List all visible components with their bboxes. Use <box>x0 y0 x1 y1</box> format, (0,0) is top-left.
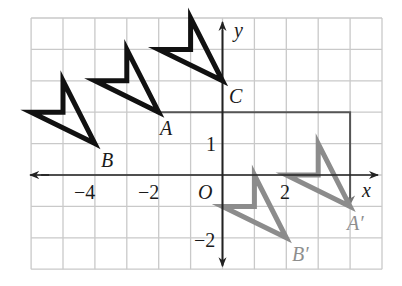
x-tick-2: 2 <box>280 182 290 202</box>
point-b-label: B <box>101 150 113 170</box>
origin-label: O <box>198 182 212 202</box>
y-axis-label: y <box>234 20 243 40</box>
point-b-prime-label: B′ <box>292 244 309 264</box>
y-tick-neg2: −2 <box>194 230 215 250</box>
x-tick-neg2: −2 <box>138 182 159 202</box>
x-axis-label: x <box>362 180 371 200</box>
coordinate-diagram: y C A 1 B −4 −2 O 2 x A′ −2 B′ <box>0 0 402 286</box>
point-c-label: C <box>229 86 242 106</box>
y-tick-1: 1 <box>206 134 216 154</box>
x-tick-neg4: −4 <box>74 182 95 202</box>
point-a-label: A <box>160 118 172 138</box>
point-a-prime-label: A′ <box>347 213 364 233</box>
